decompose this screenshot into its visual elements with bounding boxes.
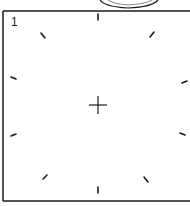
tick-mark-left-upper xyxy=(11,77,16,79)
diagram-canvas: 1 xyxy=(0,0,190,206)
tick-mark-right-upper xyxy=(182,81,187,83)
diagram-svg xyxy=(0,0,190,206)
crosshair-icon xyxy=(89,96,107,114)
frame-number-label: 1 xyxy=(11,16,18,28)
tick-marks xyxy=(11,14,187,193)
tick-mark-right-lower xyxy=(180,133,185,135)
tick-mark-bottom-left xyxy=(43,175,47,179)
frame-box xyxy=(3,11,190,201)
tick-mark-left-lower xyxy=(11,134,16,136)
tick-mark-top-right xyxy=(150,32,154,37)
top-arc-shape xyxy=(100,0,158,8)
tick-mark-top-left xyxy=(41,33,45,38)
tick-mark-bottom-right xyxy=(144,177,148,182)
